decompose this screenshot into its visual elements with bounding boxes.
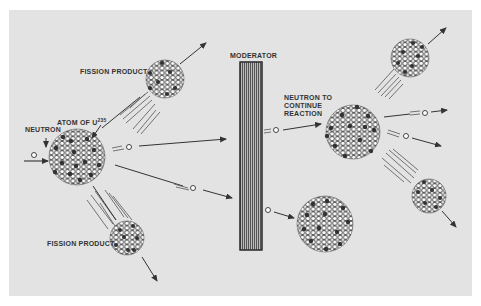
fission-product-bottom xyxy=(110,221,144,255)
atom-superscript: 235 xyxy=(97,117,106,123)
neutron-continue-line-1: NEUTRON TO xyxy=(284,94,332,102)
incoming-neutron xyxy=(24,138,48,161)
neutron-to-bottom-atom xyxy=(266,208,295,219)
neutron-continue-line-2: CONTINUE xyxy=(284,102,332,110)
u235-atom xyxy=(49,129,105,185)
right-fragment-bottom xyxy=(412,179,446,213)
right-trail-bottom xyxy=(382,149,418,183)
right-neutron-1 xyxy=(384,110,447,117)
right-neutron-2 xyxy=(387,130,441,146)
fission-trail-top xyxy=(120,92,160,134)
fission-product-top-label: FISSION PRODUCT xyxy=(80,68,148,76)
right-atom-bottom xyxy=(297,196,353,252)
neutron-to-right-atom xyxy=(264,124,321,133)
moderator-label: MODERATOR xyxy=(230,52,277,60)
fission-product-top xyxy=(146,60,184,98)
atom-label-text: ATOM OF U xyxy=(57,119,97,126)
atom-label: ATOM OF U235 xyxy=(57,116,106,127)
right-atom-center xyxy=(325,105,380,159)
neutron-continue-label: NEUTRON TO CONTINUE REACTION xyxy=(284,94,332,118)
fission-product-bottom-label: FISSION PRODUCT xyxy=(47,240,115,248)
right-fragment-top xyxy=(391,39,429,77)
fission-diagram xyxy=(0,0,481,306)
neutron-to-moderator-top xyxy=(112,139,226,151)
neutron-continue-line-3: REACTION xyxy=(284,110,332,118)
neutron-to-moderator-bottom xyxy=(115,165,232,198)
neutron-label: NEUTRON xyxy=(25,126,61,134)
moderator-block xyxy=(240,62,262,250)
